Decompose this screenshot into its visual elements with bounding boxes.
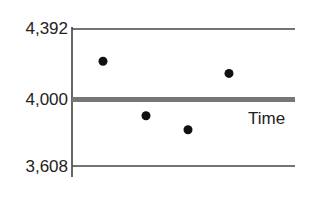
data-point	[142, 111, 151, 120]
data-point	[225, 69, 234, 78]
y-tick-mid: 4,000	[0, 91, 68, 108]
data-points	[99, 57, 234, 134]
y-tick-top: 4,392	[0, 20, 68, 37]
data-point	[184, 125, 193, 134]
y-tick-bottom: 3,608	[0, 158, 68, 175]
data-point	[99, 57, 108, 66]
x-axis-label: Time	[248, 110, 285, 127]
